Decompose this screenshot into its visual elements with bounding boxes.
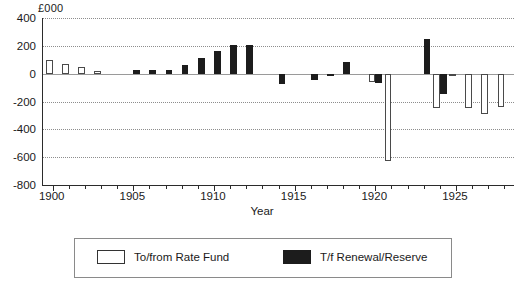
x-tick — [424, 185, 425, 189]
legend-swatch-white-icon — [97, 250, 125, 264]
bar — [78, 67, 85, 73]
bar — [498, 74, 505, 107]
x-tick — [101, 185, 102, 189]
x-tick — [246, 185, 247, 189]
x-tick-label: 1925 — [442, 190, 468, 202]
x-tick — [359, 185, 360, 189]
x-axis-tick-labels: 190019051910191519201925 — [42, 190, 514, 206]
x-axis-title: Year — [0, 205, 524, 217]
x-tick — [472, 185, 473, 189]
gridline — [43, 18, 514, 19]
bar — [369, 74, 376, 82]
bar — [182, 65, 189, 73]
legend-entry-renewal-reserve: T/f Renewal/Reserve — [283, 250, 427, 264]
x-tick-label: 1910 — [200, 190, 226, 202]
x-tick — [391, 185, 392, 189]
y-tick-label: 0 — [30, 68, 36, 80]
x-tick — [230, 185, 231, 189]
y-axis-tick-labels: 4002000-200-400-600-800 — [0, 18, 38, 186]
x-tick — [408, 185, 409, 189]
y-tick-label: -200 — [13, 96, 36, 108]
x-tick-label: 1915 — [281, 190, 307, 202]
x-tick-label: 1920 — [361, 190, 387, 202]
bar — [214, 51, 221, 73]
y-tick-label: 200 — [17, 40, 36, 52]
bar — [343, 62, 350, 74]
plot-area — [42, 18, 514, 186]
legend-label: To/from Rate Fund — [134, 251, 229, 263]
y-tick-label: -600 — [13, 151, 36, 163]
bar — [46, 60, 53, 74]
bar — [149, 70, 156, 73]
x-tick-label: 1900 — [39, 190, 65, 202]
bar — [246, 45, 253, 74]
x-tick-label: 1905 — [120, 190, 146, 202]
x-tick — [311, 185, 312, 189]
bar — [94, 71, 101, 74]
bar — [133, 70, 140, 73]
bar — [279, 74, 286, 84]
bar — [198, 58, 205, 74]
bar — [449, 74, 456, 76]
legend-label: T/f Renewal/Reserve — [320, 251, 427, 263]
bar — [311, 74, 318, 80]
bar — [481, 74, 488, 114]
y-tick-label: -800 — [13, 179, 36, 191]
x-tick — [85, 185, 86, 189]
x-tick — [343, 185, 344, 189]
x-tick — [504, 185, 505, 189]
gridline — [43, 102, 514, 103]
x-tick — [440, 185, 441, 189]
bar — [385, 74, 392, 162]
legend-swatch-black-icon — [283, 250, 311, 264]
x-tick — [327, 185, 328, 189]
x-tick — [198, 185, 199, 189]
gridline — [43, 46, 514, 47]
x-tick — [117, 185, 118, 189]
bar — [433, 74, 440, 108]
bar — [440, 74, 447, 94]
x-tick — [149, 185, 150, 189]
bar — [62, 64, 69, 74]
x-tick — [69, 185, 70, 189]
gridline — [43, 129, 514, 130]
bar — [327, 74, 334, 76]
x-tick — [262, 185, 263, 189]
bar-chart: £000 4002000-200-400-600-800 19001905191… — [0, 0, 524, 225]
legend: To/from Rate Fund T/f Renewal/Reserve — [74, 238, 452, 278]
chart-screenshot: £000 4002000-200-400-600-800 19001905191… — [0, 0, 524, 286]
bar — [424, 39, 431, 74]
bar — [375, 74, 382, 84]
bar — [465, 74, 472, 108]
legend-entry-rate-fund: To/from Rate Fund — [97, 250, 229, 264]
y-axis-unit-label: £000 — [38, 2, 63, 14]
x-tick — [182, 185, 183, 189]
y-tick-label: 400 — [17, 12, 36, 24]
x-tick — [279, 185, 280, 189]
bar — [230, 45, 237, 74]
bar — [166, 70, 173, 73]
x-tick — [166, 185, 167, 189]
y-tick-label: -400 — [13, 123, 36, 135]
x-tick — [488, 185, 489, 189]
gridline — [43, 157, 514, 158]
